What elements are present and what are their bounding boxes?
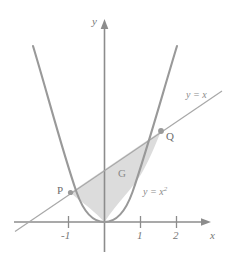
point-marker-q (158, 128, 164, 134)
region-label-g: G (118, 168, 126, 179)
x-axis-arrowhead (201, 218, 211, 226)
x-axis-label: x (210, 230, 215, 241)
point-label-q: Q (166, 131, 174, 142)
x-tick-label-1: 1 (137, 230, 143, 241)
parabola-equation-exponent: 2 (164, 185, 168, 193)
y-axis-arrowhead (101, 19, 109, 29)
parabola-equation-base: y = x (143, 186, 164, 197)
math-figure: y x -1 1 2 P Q G y = x y = x2 (0, 0, 228, 260)
line-y-equals-x (15, 91, 222, 232)
y-axis-label: y (92, 16, 97, 27)
figure-canvas (0, 0, 228, 260)
point-marker-p (68, 190, 73, 195)
line-equation-label: y = x (186, 90, 207, 100)
x-tick-label-minus1: -1 (61, 230, 70, 241)
parabola-equation-label: y = x2 (143, 186, 167, 197)
point-label-p: P (57, 185, 63, 196)
x-tick-label-2: 2 (173, 230, 179, 241)
